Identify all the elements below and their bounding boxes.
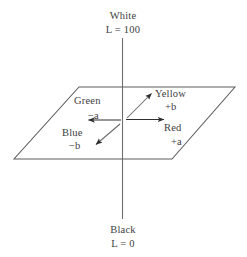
yellow-label: Yellow [155,88,186,100]
blue-axis-arrow [96,124,120,145]
yellow-sign-label: +b [165,101,177,113]
black-endpoint-label: Black L = 0 [110,224,136,250]
white-name: White [110,10,137,21]
white-endpoint-label: White L = 100 [106,10,140,36]
green-sign-label: −a [88,110,99,122]
cielab-color-space-diagram: White L = 100 Black L = 0 Green −a Red +… [0,0,247,257]
red-label: Red [164,122,182,134]
blue-sign-label: −b [69,140,81,152]
chroma-plane [14,87,235,159]
black-name: Black [110,224,136,235]
blue-label: Blue [62,127,83,139]
yellow-axis-arrow [127,94,152,119]
white-value: L = 100 [106,24,140,36]
black-value: L = 0 [110,238,136,250]
green-label: Green [74,95,101,107]
diagram-canvas [0,0,247,257]
red-sign-label: +a [171,136,182,148]
